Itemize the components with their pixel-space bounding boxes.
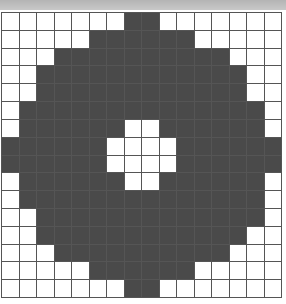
grid-cell[interactable] bbox=[212, 120, 229, 137]
grid-cell[interactable] bbox=[160, 262, 177, 279]
grid-cell[interactable] bbox=[195, 173, 212, 190]
grid-cell[interactable] bbox=[160, 13, 177, 30]
grid-cell[interactable] bbox=[212, 280, 229, 297]
grid-cell[interactable] bbox=[265, 49, 282, 66]
grid-cell[interactable] bbox=[90, 227, 107, 244]
grid-cell[interactable] bbox=[37, 84, 54, 101]
grid-cell[interactable] bbox=[37, 156, 54, 173]
grid-cell[interactable] bbox=[230, 138, 247, 155]
grid-cell[interactable] bbox=[125, 138, 142, 155]
grid-cell[interactable] bbox=[160, 209, 177, 226]
grid-cell[interactable] bbox=[90, 245, 107, 262]
grid-cell[interactable] bbox=[125, 191, 142, 208]
grid-cell[interactable] bbox=[125, 120, 142, 137]
grid-cell[interactable] bbox=[142, 31, 159, 48]
grid-cell[interactable] bbox=[177, 262, 194, 279]
grid-cell[interactable] bbox=[72, 262, 89, 279]
grid-cell[interactable] bbox=[20, 49, 37, 66]
grid-cell[interactable] bbox=[20, 13, 37, 30]
grid-cell[interactable] bbox=[107, 49, 124, 66]
grid-cell[interactable] bbox=[55, 245, 72, 262]
grid-cell[interactable] bbox=[142, 49, 159, 66]
grid-cell[interactable] bbox=[212, 262, 229, 279]
grid-cell[interactable] bbox=[2, 138, 19, 155]
grid-cell[interactable] bbox=[72, 209, 89, 226]
grid-cell[interactable] bbox=[142, 138, 159, 155]
grid-cell[interactable] bbox=[195, 138, 212, 155]
grid-cell[interactable] bbox=[160, 280, 177, 297]
grid-cell[interactable] bbox=[142, 84, 159, 101]
grid-cell[interactable] bbox=[72, 66, 89, 83]
grid-cell[interactable] bbox=[107, 262, 124, 279]
grid-cell[interactable] bbox=[195, 156, 212, 173]
grid-cell[interactable] bbox=[247, 13, 264, 30]
grid-cell[interactable] bbox=[177, 280, 194, 297]
grid-cell[interactable] bbox=[55, 102, 72, 119]
grid-cell[interactable] bbox=[20, 31, 37, 48]
grid-cell[interactable] bbox=[55, 173, 72, 190]
grid-cell[interactable] bbox=[265, 84, 282, 101]
grid-cell[interactable] bbox=[195, 245, 212, 262]
grid-cell[interactable] bbox=[160, 84, 177, 101]
grid-cell[interactable] bbox=[212, 31, 229, 48]
grid-cell[interactable] bbox=[177, 209, 194, 226]
grid-cell[interactable] bbox=[2, 13, 19, 30]
grid-cell[interactable] bbox=[72, 102, 89, 119]
grid-cell[interactable] bbox=[90, 280, 107, 297]
grid-cell[interactable] bbox=[160, 156, 177, 173]
grid-cell[interactable] bbox=[212, 245, 229, 262]
grid-cell[interactable] bbox=[142, 227, 159, 244]
grid-cell[interactable] bbox=[37, 209, 54, 226]
grid-cell[interactable] bbox=[247, 262, 264, 279]
grid-cell[interactable] bbox=[55, 13, 72, 30]
grid-cell[interactable] bbox=[37, 245, 54, 262]
grid-cell[interactable] bbox=[90, 209, 107, 226]
grid-cell[interactable] bbox=[195, 13, 212, 30]
grid-cell[interactable] bbox=[2, 173, 19, 190]
grid-cell[interactable] bbox=[107, 209, 124, 226]
grid-cell[interactable] bbox=[265, 138, 282, 155]
grid-cell[interactable] bbox=[247, 102, 264, 119]
grid-cell[interactable] bbox=[212, 102, 229, 119]
grid-cell[interactable] bbox=[160, 102, 177, 119]
grid-cell[interactable] bbox=[177, 84, 194, 101]
grid-cell[interactable] bbox=[20, 66, 37, 83]
grid-cell[interactable] bbox=[177, 102, 194, 119]
grid-cell[interactable] bbox=[55, 209, 72, 226]
grid-cell[interactable] bbox=[107, 173, 124, 190]
grid-cell[interactable] bbox=[20, 191, 37, 208]
grid-cell[interactable] bbox=[20, 120, 37, 137]
grid-cell[interactable] bbox=[195, 262, 212, 279]
grid-cell[interactable] bbox=[212, 13, 229, 30]
grid-cell[interactable] bbox=[55, 227, 72, 244]
grid-cell[interactable] bbox=[2, 31, 19, 48]
grid-cell[interactable] bbox=[20, 138, 37, 155]
grid-cell[interactable] bbox=[125, 66, 142, 83]
grid-cell[interactable] bbox=[2, 262, 19, 279]
grid-cell[interactable] bbox=[212, 227, 229, 244]
grid-cell[interactable] bbox=[107, 102, 124, 119]
grid-cell[interactable] bbox=[2, 156, 19, 173]
grid-cell[interactable] bbox=[125, 262, 142, 279]
grid-cell[interactable] bbox=[55, 138, 72, 155]
grid-cell[interactable] bbox=[247, 280, 264, 297]
grid-cell[interactable] bbox=[160, 245, 177, 262]
grid-cell[interactable] bbox=[125, 173, 142, 190]
grid-cell[interactable] bbox=[247, 191, 264, 208]
grid-cell[interactable] bbox=[37, 120, 54, 137]
grid-cell[interactable] bbox=[247, 156, 264, 173]
grid-cell[interactable] bbox=[72, 31, 89, 48]
grid-cell[interactable] bbox=[265, 209, 282, 226]
grid-cell[interactable] bbox=[125, 209, 142, 226]
grid-cell[interactable] bbox=[37, 31, 54, 48]
grid-cell[interactable] bbox=[72, 49, 89, 66]
grid-cell[interactable] bbox=[125, 49, 142, 66]
grid-cell[interactable] bbox=[2, 209, 19, 226]
grid-cell[interactable] bbox=[265, 120, 282, 137]
grid-cell[interactable] bbox=[125, 227, 142, 244]
grid-cell[interactable] bbox=[160, 66, 177, 83]
grid-cell[interactable] bbox=[142, 245, 159, 262]
grid-cell[interactable] bbox=[90, 262, 107, 279]
grid-cell[interactable] bbox=[195, 191, 212, 208]
grid-cell[interactable] bbox=[72, 138, 89, 155]
